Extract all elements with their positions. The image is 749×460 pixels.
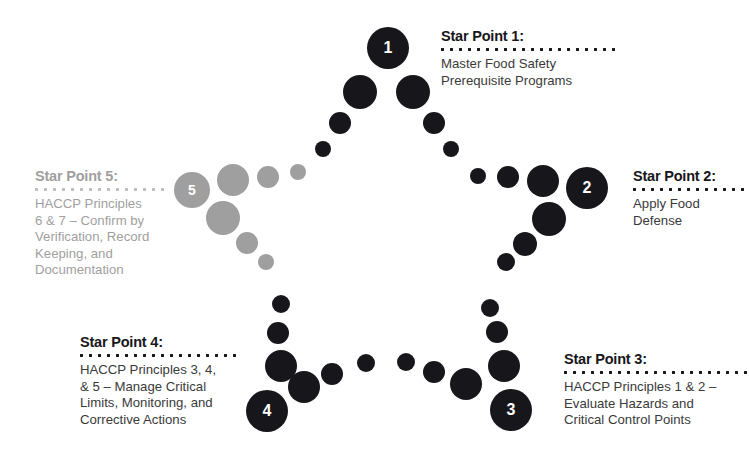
star-point-4-label: Star Point 4: HACCP Principles 3, 4, & 5… — [80, 334, 240, 428]
star-outline-dot — [206, 201, 240, 235]
star-outline-dot — [290, 164, 306, 180]
star-outline-dot — [488, 350, 520, 382]
star-point-node-3[interactable]: 3 — [490, 389, 532, 431]
star-point-3-body: HACCP Principles 1 & 2 – Evaluate Hazard… — [564, 379, 749, 429]
star-point-5-rule — [35, 188, 170, 191]
star-outline-dot — [397, 353, 415, 371]
star-point-node-2[interactable]: 2 — [566, 167, 608, 209]
star-outline-dot — [217, 164, 249, 196]
star-outline-dot — [257, 166, 279, 188]
star-point-3-label: Star Point 3: HACCP Principles 1 & 2 – E… — [564, 351, 749, 429]
star-outline-dot — [481, 299, 499, 317]
star-point-4-rule — [80, 354, 240, 357]
star-point-5-title: Star Point 5: — [35, 168, 170, 184]
star-outline-dot — [258, 254, 274, 270]
star-point-2-label: Star Point 2: Apply Food Defense — [633, 168, 749, 229]
star-outline-dot — [450, 368, 482, 400]
star-outline-dot — [497, 166, 519, 188]
star-point-1-label: Star Point 1: Master Food Safety Prerequ… — [441, 28, 616, 89]
star-outline-dot — [357, 354, 375, 372]
star-point-1-body: Master Food Safety Prerequisite Programs — [441, 56, 616, 89]
star-point-node-1[interactable]: 1 — [367, 27, 409, 69]
star-point-node-4[interactable]: 4 — [246, 390, 288, 432]
star-point-4-title: Star Point 4: — [80, 334, 240, 350]
star-outline-dot — [236, 232, 258, 254]
star-outline-dot — [532, 202, 566, 236]
star-outline-dot — [343, 75, 377, 109]
star-point-2-body: Apply Food Defense — [633, 196, 749, 229]
star-outline-dot — [423, 361, 445, 383]
star-outline-dot — [272, 295, 290, 313]
star-point-1-rule — [441, 48, 616, 51]
star-point-node-5[interactable]: 5 — [174, 172, 210, 208]
star-outline-dot — [396, 75, 430, 109]
star-outline-dot — [267, 322, 289, 344]
star-outline-dot — [265, 350, 297, 382]
star-point-4-body: HACCP Principles 3, 4, & 5 – Manage Crit… — [80, 362, 240, 428]
star-outline-dot — [513, 232, 537, 256]
star-outline-dot — [527, 165, 559, 197]
star-point-5-body: HACCP Principles 6 & 7 – Confirm by Veri… — [35, 196, 170, 279]
star-diagram: 12345 Star Point 1: Master Food Safety P… — [0, 0, 749, 460]
star-point-1-title: Star Point 1: — [441, 28, 616, 44]
star-outline-dot — [329, 112, 351, 134]
star-outline-dot — [321, 363, 343, 385]
star-outline-dot — [443, 141, 459, 157]
star-point-3-rule — [564, 371, 749, 374]
star-point-5-label: Star Point 5: HACCP Principles 6 & 7 – C… — [35, 168, 170, 279]
star-outline-dot — [486, 321, 508, 343]
star-point-2-title: Star Point 2: — [633, 168, 749, 184]
star-point-3-title: Star Point 3: — [564, 351, 749, 367]
star-point-2-rule — [633, 188, 749, 191]
star-outline-dot — [470, 168, 486, 184]
star-outline-dot — [423, 112, 445, 134]
star-outline-dot — [497, 253, 515, 271]
star-outline-dot — [315, 141, 331, 157]
